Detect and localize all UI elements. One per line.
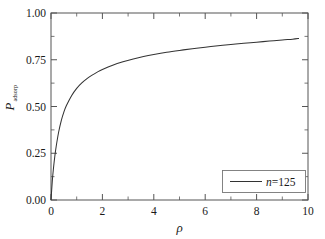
x-tick-label: 6 bbox=[202, 205, 208, 217]
y-axis-title-main: P bbox=[2, 102, 17, 111]
y-axis-title-subscript: adsorp bbox=[11, 85, 18, 102]
y-axis-minor-ticks bbox=[51, 36, 308, 176]
chart-figure: 0246810 0.000.250.500.751.00 ρ P adsorp … bbox=[0, 0, 325, 239]
y-tick-label: 0.25 bbox=[26, 147, 46, 159]
x-axis-tick-labels: 0246810 bbox=[48, 205, 314, 217]
y-tick-label: 1.00 bbox=[26, 7, 46, 19]
x-tick-label: 2 bbox=[100, 205, 106, 217]
x-tick-label: 4 bbox=[151, 205, 157, 217]
chart-canvas: 0246810 0.000.250.500.751.00 ρ P adsorp … bbox=[0, 0, 325, 239]
y-tick-label: 0.00 bbox=[26, 194, 46, 206]
x-tick-label: 8 bbox=[254, 205, 260, 217]
y-tick-label: 0.50 bbox=[26, 101, 46, 113]
legend-entry-label: n=125 bbox=[266, 176, 296, 188]
legend: n=125 bbox=[223, 171, 306, 193]
y-axis-title: P adsorp bbox=[2, 85, 18, 111]
x-tick-label: 10 bbox=[302, 205, 314, 217]
y-axis-tick-labels: 0.000.250.500.751.00 bbox=[26, 7, 46, 206]
x-axis-title: ρ bbox=[175, 220, 182, 235]
y-tick-label: 0.75 bbox=[26, 54, 46, 66]
x-tick-label: 0 bbox=[48, 205, 54, 217]
legend-entry-value: =125 bbox=[272, 176, 296, 188]
